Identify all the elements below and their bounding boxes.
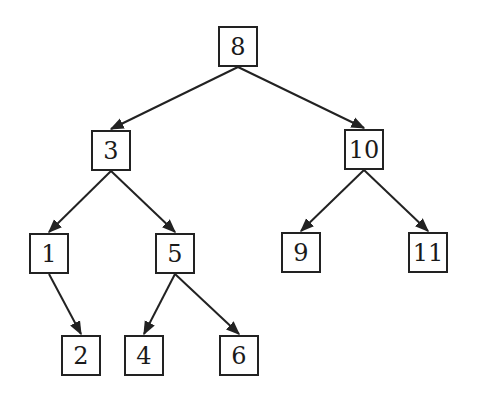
edge-n3-n5 <box>111 171 175 232</box>
edge-n10-n9 <box>301 170 364 231</box>
tree-node-5: 5 <box>155 233 195 274</box>
node-label: 10 <box>349 136 380 164</box>
edge-n1-n2 <box>49 274 81 334</box>
node-label: 1 <box>41 240 56 268</box>
node-label: 2 <box>73 342 88 370</box>
node-label: 4 <box>136 342 151 370</box>
edge-n10-n11 <box>364 170 428 231</box>
tree-node-6: 6 <box>219 335 259 376</box>
edge-n5-n6 <box>175 274 239 334</box>
tree-node-11: 11 <box>408 232 448 273</box>
tree-node-1: 1 <box>29 233 69 274</box>
node-label: 9 <box>293 239 308 267</box>
node-label: 3 <box>103 137 118 165</box>
node-label: 8 <box>230 33 245 61</box>
tree-node-3: 3 <box>91 130 131 171</box>
node-label: 5 <box>167 240 182 268</box>
edge-n8-n3 <box>111 67 238 129</box>
edge-n8-n10 <box>238 67 364 128</box>
node-label: 11 <box>413 239 444 267</box>
edge-n5-n4 <box>144 274 175 334</box>
tree-node-2: 2 <box>61 335 101 376</box>
tree-node-9: 9 <box>281 232 321 273</box>
tree-node-8: 8 <box>218 26 258 67</box>
tree-node-4: 4 <box>124 335 164 376</box>
edge-n3-n1 <box>49 171 111 232</box>
tree-diagram: 8 3 10 1 5 9 11 2 4 6 <box>0 0 478 398</box>
node-label: 6 <box>231 342 246 370</box>
tree-node-10: 10 <box>344 129 384 170</box>
